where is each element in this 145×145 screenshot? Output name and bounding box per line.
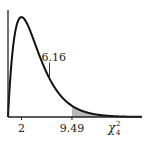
- density-curve: [8, 17, 142, 117]
- x-axis-label: χ: [107, 121, 116, 135]
- x-axis-label-superscript: 2: [116, 120, 120, 128]
- x-tick-label: 2: [18, 122, 25, 135]
- x-tick-label: 9.49: [60, 122, 85, 135]
- x-axis-label-base: χ: [107, 121, 116, 135]
- chi-square-chart: 2 9.49 6.16 χ 2 4: [0, 0, 145, 145]
- x-axis-label-subscript: 4: [116, 129, 121, 137]
- annotation-label: 6.16: [42, 51, 67, 64]
